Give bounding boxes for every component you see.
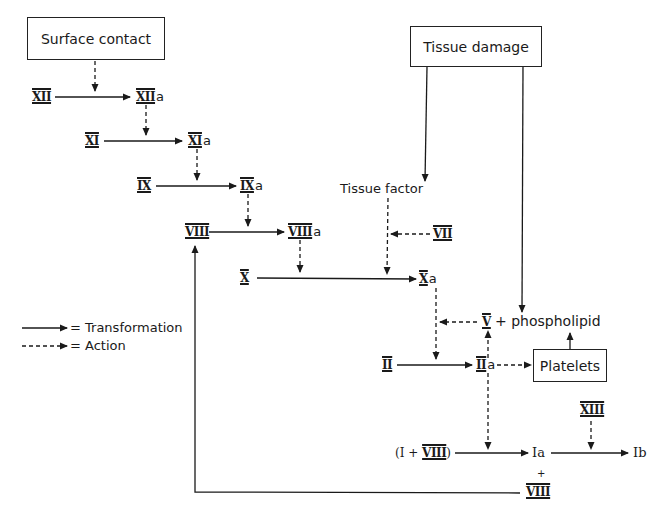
- fibrinogen-complex: (I + VIII): [395, 446, 451, 460]
- factor-ib: Ib: [633, 446, 646, 460]
- transform-arrow-x: [257, 278, 416, 279]
- factor-ix: IX: [137, 179, 151, 193]
- factor-xi: XI: [85, 134, 99, 148]
- factor-vii: VII: [433, 227, 452, 241]
- factor-viiia: VIIIa: [288, 225, 321, 239]
- tissue-factor-label: Tissue factor: [340, 182, 423, 196]
- factor-viii: VIII: [185, 225, 209, 239]
- plus-sign: +: [537, 467, 545, 481]
- cascade-arrows: [0, 0, 664, 518]
- factor-xii: XII: [32, 90, 51, 104]
- phospholipid-label: + phospholipid: [495, 314, 601, 328]
- factor-ixa: IXa: [240, 179, 263, 193]
- factor-iia: IIa: [476, 358, 495, 372]
- factor-ia: Ia: [532, 446, 545, 460]
- factor-x: X: [240, 271, 249, 285]
- transform-arrow-tissue-damage-to-factor: [425, 67, 427, 181]
- legend-transformation-label: = Transformation: [70, 321, 183, 335]
- legend-action-label: = Action: [70, 339, 126, 353]
- factor-xiia: XIIa: [136, 90, 164, 104]
- factor-xia: XIa: [188, 134, 211, 148]
- factor-v: V: [482, 315, 491, 329]
- action-arrow-tissue-factor: [387, 198, 388, 274]
- surface-contact-label: Surface contact: [41, 31, 151, 47]
- factor-xiii: XIII: [580, 403, 604, 417]
- platelets-label: Platelets: [540, 358, 600, 374]
- transform-arrow-tissue-damage-to-phospholipid: [522, 67, 523, 312]
- factor-ii: II: [382, 358, 392, 372]
- tissue-damage-label: Tissue damage: [423, 39, 529, 55]
- tissue-damage-box: Tissue damage: [410, 26, 542, 67]
- surface-contact-box: Surface contact: [27, 17, 165, 60]
- factor-xa: Xa: [419, 272, 437, 286]
- factor-viii-feedback: VIII: [526, 485, 550, 499]
- platelets-box: Platelets: [533, 349, 607, 382]
